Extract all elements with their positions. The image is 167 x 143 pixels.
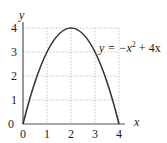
ytick-3: 3 [11, 45, 17, 59]
xtick-4: 4 [116, 127, 122, 141]
xtick-3: 3 [92, 127, 98, 141]
equation-prefix: y = −x [98, 41, 133, 55]
xtick-0: 0 [20, 127, 26, 141]
ytick-2: 2 [11, 69, 17, 83]
ytick-4: 4 [11, 21, 17, 35]
xtick-2: 2 [68, 127, 74, 141]
equation-label: y = −x2 + 4x [98, 40, 161, 55]
ytick-1: 1 [11, 93, 17, 107]
equation-suffix: + 4x [136, 41, 161, 55]
xtick-1: 1 [44, 127, 50, 141]
x-axis-label: x [133, 115, 140, 129]
y-axis-label: y [18, 8, 25, 22]
parabola-chart: y x 0 1 2 3 4 0 1 2 3 4 y = −x2 + 4x [0, 0, 167, 143]
ytick-0: 0 [8, 117, 14, 131]
